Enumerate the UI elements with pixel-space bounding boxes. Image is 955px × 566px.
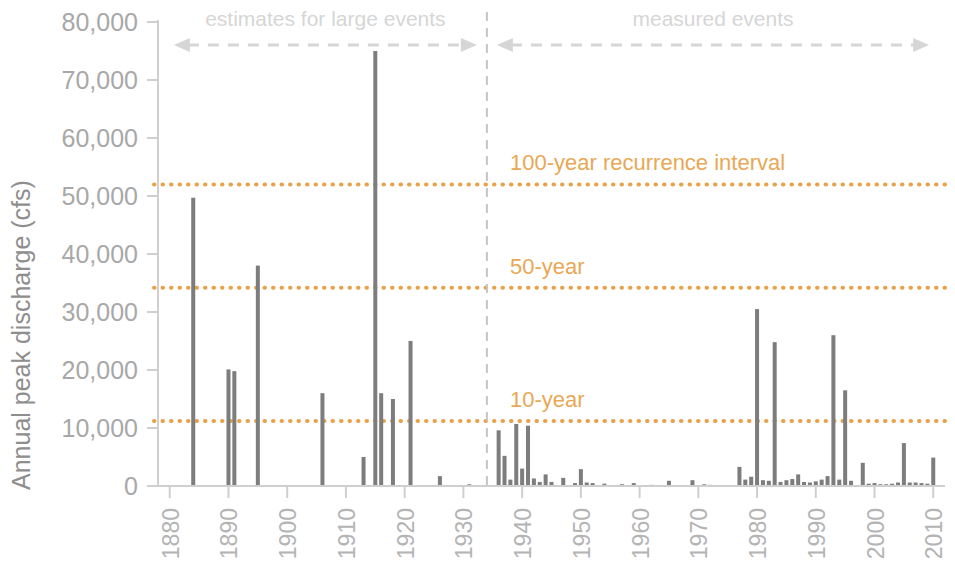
x-tick-label: 2010 (921, 508, 947, 559)
recurrence-reference-lines: 100-year recurrence interval50-year10-ye… (154, 150, 945, 421)
bar (438, 476, 442, 486)
x-tick-label: 1930 (451, 508, 477, 559)
band-arrow-head-left (497, 38, 513, 52)
bar (861, 463, 865, 486)
bar (226, 369, 230, 486)
y-tick-label: 80,000 (62, 8, 138, 36)
y-tick-label: 10,000 (62, 414, 138, 442)
x-tick-label: 1900 (275, 508, 301, 559)
bar (320, 393, 324, 486)
x-tick-label: 1950 (569, 508, 595, 559)
bar (843, 390, 847, 486)
band-label: estimates for large events (205, 7, 445, 30)
band-arrow-head-left (174, 38, 190, 52)
bar (362, 457, 366, 486)
bar (232, 371, 236, 486)
bar (831, 335, 835, 486)
bar (532, 478, 536, 486)
reference-label-100-year: 100-year recurrence interval (510, 150, 785, 175)
bar (409, 341, 413, 486)
y-tick-label: 70,000 (62, 66, 138, 94)
y-axis-label: Annual peak discharge (cfs) (7, 180, 35, 490)
bar (526, 426, 530, 486)
x-tick-label: 1970 (686, 508, 712, 559)
x-tick-label: 1920 (393, 508, 419, 559)
bar (737, 467, 741, 486)
y-tick-label: 20,000 (62, 356, 138, 384)
bar (544, 474, 548, 486)
y-tick-label: 0 (124, 472, 138, 500)
bar (826, 476, 830, 486)
x-tick-label: 1910 (334, 508, 360, 559)
y-axis-ticks: 010,00020,00030,00040,00050,00060,00070,… (62, 8, 158, 500)
reference-label-50-year: 50-year (510, 254, 585, 279)
bar (579, 469, 583, 486)
bar (256, 266, 260, 486)
bar (796, 474, 800, 486)
x-tick-label: 1940 (510, 508, 536, 559)
y-tick-label: 50,000 (62, 182, 138, 210)
band-arrow-head-right (913, 38, 929, 52)
bar (497, 430, 501, 486)
reference-label-10-year: 10-year (510, 387, 585, 412)
chart-container: Annual peak discharge (cfs) 010,00020,00… (0, 0, 955, 566)
y-tick-label: 60,000 (62, 124, 138, 152)
bar (520, 469, 524, 486)
x-axis-ticks: 1880189019001910192019301940195019601970… (158, 486, 948, 559)
bar (373, 51, 377, 486)
bar (902, 443, 906, 486)
x-tick-label: 1890 (216, 508, 242, 559)
bar (790, 479, 794, 486)
bar (514, 424, 518, 486)
y-tick-label: 40,000 (62, 240, 138, 268)
bar (561, 478, 565, 486)
band-arrow-head-right (461, 38, 477, 52)
bar (931, 458, 935, 486)
annual-peak-discharge-chart: Annual peak discharge (cfs) 010,00020,00… (0, 0, 955, 566)
x-tick-label: 1980 (745, 508, 771, 559)
x-tick-label: 1960 (628, 508, 654, 559)
period-annotation-bands: estimates for large eventsmeasured event… (174, 7, 929, 52)
x-tick-label: 1990 (804, 508, 830, 559)
bar (391, 399, 395, 486)
x-tick-label: 2000 (863, 508, 889, 559)
y-tick-label: 30,000 (62, 298, 138, 326)
band-label: measured events (632, 7, 793, 30)
bar (191, 198, 195, 486)
bar (503, 456, 507, 486)
bar (773, 342, 777, 486)
bar (749, 477, 753, 486)
x-tick-label: 1880 (158, 508, 184, 559)
bar (755, 309, 759, 486)
bar (379, 393, 383, 486)
